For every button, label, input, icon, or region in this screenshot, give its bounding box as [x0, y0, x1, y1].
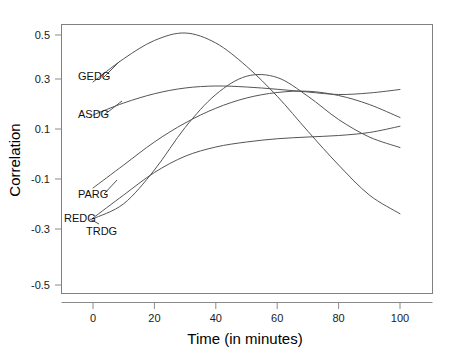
chart-page: 0.5 0.3 0.1 -0.1 -0.3 -0.5 0 20 40 60 80… [0, 0, 453, 350]
y-tick-label: 0.5 [35, 29, 50, 41]
y-tick-label: -0.1 [31, 173, 50, 185]
y-axis-ticks [55, 35, 62, 285]
y-tick-label: -0.3 [31, 223, 50, 235]
series-line-gedg [93, 33, 400, 214]
y-axis-tick-labels: 0.5 0.3 0.1 -0.1 -0.3 -0.5 [31, 29, 50, 291]
y-axis-title: Correlation [6, 123, 23, 196]
correlation-line-chart: 0.5 0.3 0.1 -0.1 -0.3 -0.5 0 20 40 60 80… [0, 0, 453, 350]
x-tick-label: 80 [332, 312, 344, 324]
x-tick-label: 40 [210, 312, 222, 324]
series-label-redg: REDG [64, 212, 96, 224]
x-axis-ticks [62, 303, 433, 310]
x-axis-tick-labels: 0 20 40 60 80 100 [90, 312, 409, 324]
series-label-asdg: ASDG [78, 108, 109, 120]
plot-frame [62, 25, 433, 294]
x-tick-label: 0 [90, 312, 96, 324]
series-line-trdg [93, 75, 400, 219]
series-line-parg [93, 91, 400, 188]
x-axis-title: Time (in minutes) [187, 330, 302, 347]
x-tick-label: 60 [271, 312, 283, 324]
series-layer [93, 33, 400, 219]
series-line-redg [93, 126, 400, 218]
y-tick-label: -0.5 [31, 279, 50, 291]
series-label-gedg: GEDG [78, 70, 110, 82]
y-tick-label: 0.3 [35, 73, 50, 85]
series-line-asdg [93, 86, 400, 115]
y-tick-label: 0.1 [35, 123, 50, 135]
series-label-trdg: TRDG [86, 225, 117, 237]
series-label-parg: PARG [78, 188, 108, 200]
x-tick-label: 100 [391, 312, 409, 324]
x-tick-label: 20 [148, 312, 160, 324]
